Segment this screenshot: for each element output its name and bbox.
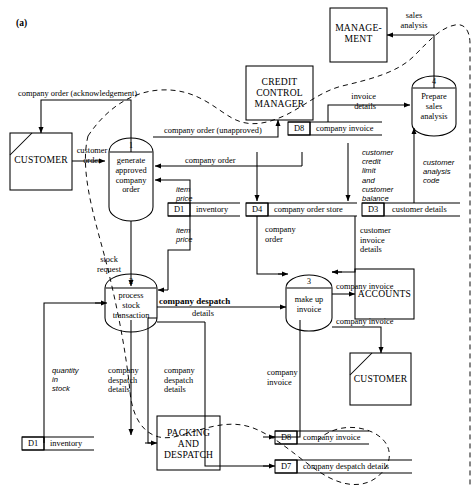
process-number-4: 4 — [412, 77, 456, 86]
flow-label-company-order: company order — [185, 156, 235, 166]
entity-label-management: MANAGE- MENT — [330, 22, 387, 44]
data-store-name-d7: company despatch details — [303, 462, 389, 471]
flow-label-company-order-acknowledgement: company order (acknowledgement) — [18, 89, 137, 99]
flow-label-customer-analysis-code: customer analysis code — [423, 158, 454, 186]
process-number-3: 3 — [286, 277, 332, 286]
data-store-name-d8-top: company invoice — [316, 124, 373, 133]
flow-label-item-price-upper: item price — [176, 185, 192, 203]
entity-label-customer-bottom: CUSTOMER — [350, 373, 411, 384]
flow-label-company-despatch-details-d7: company despatch details — [164, 366, 195, 395]
flow-label-customer-invoice-details: customer invoice details — [360, 226, 391, 255]
data-store-id-d3: D3 — [362, 205, 384, 214]
flow-label-company-order-unapproved: company order (unapproved) — [164, 126, 262, 136]
flow-label-item-price-lower: item price — [176, 226, 192, 244]
flow-label-company-invoice-d8: company invoice — [267, 368, 298, 387]
process-number-1: 1 — [109, 141, 153, 150]
flow-label-sales-analysis: sales analysis — [392, 11, 436, 30]
data-store-id-d4: D4 — [246, 205, 268, 214]
entity-label-customer-top: CUSTOMER — [10, 154, 72, 165]
data-store-name-d1-top: inventory — [196, 205, 228, 214]
process-label-3: make up invoice — [282, 295, 336, 315]
flow-label-customer-order: customer order — [72, 146, 112, 165]
data-store-name-d3: customer details — [392, 205, 447, 214]
flow-company-invoice-to-customer — [332, 327, 381, 353]
flow-label-despatch-details: details — [159, 309, 247, 319]
flow-label-stock-request: stock request — [86, 255, 132, 274]
data-store-name-d1-bottom: inventory — [50, 439, 82, 448]
flow-label-company-invoice-customer: company invoice — [336, 317, 393, 327]
duplicate-marker-line — [350, 353, 372, 375]
flow-label-company-order-store-out: company order — [265, 225, 296, 244]
diagram-canvas — [0, 0, 473, 496]
flow-label-company-invoice-accounts: company invoice — [336, 282, 393, 292]
data-store-id-d1-top: D1 — [168, 205, 190, 214]
entity-label-credit-control-manager: CREDIT CONTROL MANAGER — [246, 76, 313, 109]
process-number-2: 2 — [105, 277, 157, 286]
flow-label-company-despatch: company despatch — [159, 296, 230, 306]
flow-label-customer-credit-limit: customer credit limit and customer balan… — [362, 148, 393, 203]
dfd-figure: (a) CUSTOMER CREDIT CONTROL MANAGER MANA… — [0, 0, 473, 496]
flow-label-invoice-details: invoice details — [320, 92, 376, 111]
process-label-2: process stock transaction — [100, 291, 162, 320]
flow-customer-invoice-details-seg — [332, 216, 355, 272]
data-store-id-d8-bottom: D8 — [275, 433, 297, 442]
flow-to-packing-seg — [148, 318, 157, 443]
flow-label-quantity-in-stock: quantity in stock — [52, 366, 79, 394]
figure-label: (a) — [16, 18, 27, 28]
duplicate-marker-line — [10, 133, 32, 155]
data-store-name-d4: company order store — [274, 205, 343, 214]
entity-label-packing-and-despatch: PACKING AND DESPATCH — [157, 427, 220, 460]
process-label-4: Prepare sales analysis — [408, 92, 460, 121]
data-store-name-d8-bottom: company invoice — [303, 433, 360, 442]
data-store-id-d8-top: D8 — [288, 124, 310, 133]
data-store-id-d1-bottom: D1 — [22, 439, 44, 448]
data-store-id-d7: D7 — [275, 462, 297, 471]
flow-label-company-despatch-details-packing: company despatch details — [108, 366, 139, 395]
